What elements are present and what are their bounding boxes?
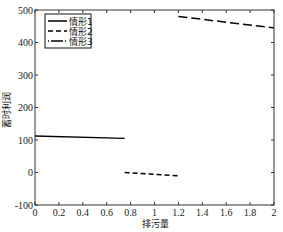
legend-label-3: 情形3 xyxy=(69,36,93,47)
y-tick-label: 400 xyxy=(18,37,33,48)
y-tick-label: -100 xyxy=(15,200,33,211)
x-tick-label: 0.6 xyxy=(100,207,113,218)
y-tick-label: 100 xyxy=(18,135,33,146)
series-line-1 xyxy=(35,136,125,138)
y-tick-label: 500 xyxy=(18,5,33,16)
y-axis-label: 蓄时利润 xyxy=(1,92,12,128)
x-tick-label: 2 xyxy=(272,207,277,218)
y-tick-label: 200 xyxy=(18,102,33,113)
y-tick-label: 0 xyxy=(28,167,33,178)
x-tick-label: 1.4 xyxy=(196,207,209,218)
x-tick-label: 0.8 xyxy=(124,207,137,218)
series-line-2 xyxy=(125,173,179,176)
series-line-3 xyxy=(178,17,274,28)
x-tick-label: 0 xyxy=(33,207,38,218)
x-axis-label: 排污量 xyxy=(142,218,169,229)
legend-label-2: 情形2 xyxy=(69,26,93,37)
y-tick-label: 300 xyxy=(18,70,33,81)
chart: 00.20.40.60.811.21.41.61.82 -10001002003… xyxy=(0,0,283,232)
x-tick-label: 1.8 xyxy=(244,207,257,218)
legend: 情形1情形2情形3 xyxy=(45,14,93,48)
x-tick-label: 1.2 xyxy=(172,207,185,218)
x-tick-label: 1 xyxy=(152,207,157,218)
legend-label-1: 情形1 xyxy=(69,16,93,27)
x-tick-label: 1.6 xyxy=(220,207,233,218)
x-tick-label: 0.4 xyxy=(77,207,90,218)
x-tick-label: 0.2 xyxy=(53,207,66,218)
